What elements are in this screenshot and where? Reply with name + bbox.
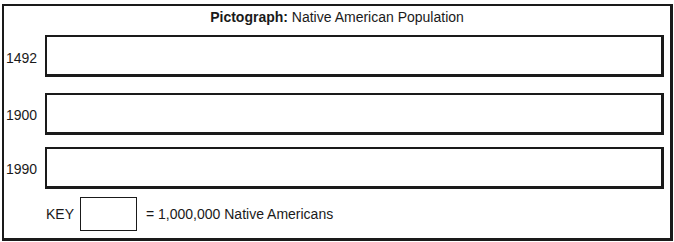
row-label-1492: 1492 bbox=[6, 50, 37, 66]
key-text: = 1,000,000 Native Americans bbox=[146, 206, 333, 222]
key-label: KEY bbox=[46, 206, 74, 222]
row-label-1990: 1990 bbox=[6, 161, 37, 177]
row-box-1900 bbox=[45, 93, 664, 135]
chart-title: Pictograph: Native American Population bbox=[0, 9, 674, 25]
row-label-1900: 1900 bbox=[6, 107, 37, 123]
title-text: Native American Population bbox=[292, 9, 464, 25]
key-symbol-box bbox=[80, 197, 137, 231]
row-box-1990 bbox=[45, 147, 664, 189]
row-box-1492 bbox=[45, 35, 664, 77]
title-bold: Pictograph: bbox=[210, 9, 288, 25]
